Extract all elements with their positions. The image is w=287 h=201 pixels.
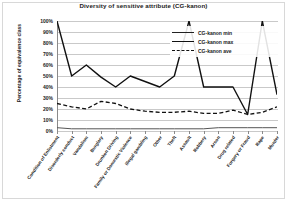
y-tick-label: 50% [3,73,53,79]
x-tick-label: Robbery [192,135,207,153]
legend-item-ave: CG-kanon ave [172,46,276,55]
legend-label-max: CG-kanon max [198,39,233,45]
x-tick-label: Other [152,135,163,148]
y-tick-label: 20% [3,106,53,112]
legend-line-min-icon [172,29,194,36]
x-tick-label: Arson [210,135,222,149]
x-axis-tick-labels: Condition of EnlistmentDisorderly conduc… [0,134,287,198]
y-tick-label: 100% [3,18,53,24]
chart-container: Diversity of sensitive attribute (CG-kan… [0,0,287,201]
y-tick-label: 10% [3,117,53,123]
legend-item-max: CG-kanon max [172,37,276,46]
y-tick-label: 90% [3,29,53,35]
series-line-cg-kanon-min [57,128,277,129]
x-tick-label: Assault [178,135,192,151]
y-tick-label: 40% [3,84,53,90]
legend-item-min: CG-kanon min [172,28,276,37]
x-tick-label: Rape [255,135,266,147]
x-tick-label: Burglary [89,135,104,153]
legend-line-max-icon [172,38,194,45]
legend-label-ave: CG-kanon ave [198,48,232,54]
chart-legend: CG-kanon min CG-kanon max CG-kanon ave [170,26,278,57]
x-tick-label: Theft [167,135,178,147]
y-tick-label: 30% [3,95,53,101]
y-tick-label: 70% [3,51,53,57]
legend-label-min: CG-kanon min [198,30,232,36]
y-axis-tick-labels: 100%90%80%70%60%50%40%30%20%10%0% [0,21,56,131]
y-tick-label: 0% [3,128,53,134]
x-tick-label: Murder [267,135,280,151]
y-tick-label: 60% [3,62,53,68]
chart-title: Diversity of sensitive attribute (CG-kan… [0,2,287,9]
legend-line-ave-icon [172,47,194,54]
y-tick-label: 80% [3,40,53,46]
